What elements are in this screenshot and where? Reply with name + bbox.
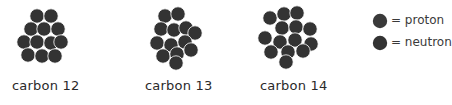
nucleon-circle (150, 36, 164, 50)
proton-circle-icon (373, 14, 387, 28)
nucleon-circle (54, 35, 68, 49)
nucleus-carbon-14 (258, 6, 318, 69)
nucleon-circle (263, 11, 277, 25)
nucleon-circle (290, 6, 304, 20)
nucleon-circle (44, 9, 58, 23)
nucleon-circle (30, 9, 44, 23)
nucleon-circle (258, 31, 272, 45)
isotope-label-carbon-13: carbon 13 (145, 78, 212, 93)
nucleon-circle (303, 22, 317, 36)
nucleon-circle (289, 20, 303, 34)
nucleon-circle (296, 44, 310, 58)
nucleon-circle (48, 49, 62, 63)
legend-neutron-label: = neutron (391, 35, 452, 49)
nucleon-circle (171, 7, 185, 21)
nucleon-circle (30, 35, 44, 49)
nucleon-circle (37, 22, 51, 36)
legend-proton-label: = proton (391, 13, 444, 27)
nucleon-circle (156, 49, 170, 63)
nucleon-circle (184, 43, 198, 57)
nucleon-circle (51, 22, 65, 36)
nucleon-circle (169, 56, 183, 70)
nucleon-circle (21, 48, 35, 62)
nucleon-circle (158, 9, 172, 23)
isotope-label-carbon-12: carbon 12 (12, 78, 79, 93)
nucleon-circle (264, 45, 278, 59)
nucleon-circle (24, 22, 38, 36)
nucleon-circle (279, 55, 293, 69)
nucleus-carbon-13 (150, 7, 202, 70)
nucleon-circle (35, 49, 49, 63)
isotope-label-carbon-14: carbon 14 (260, 78, 327, 93)
nucleon-circle (154, 22, 168, 36)
neutron-circle-icon (373, 36, 387, 50)
nucleon-circle (277, 7, 291, 21)
nucleon-circle (17, 35, 31, 49)
nucleon-circle (275, 21, 289, 35)
nucleus-carbon-12 (17, 9, 68, 63)
